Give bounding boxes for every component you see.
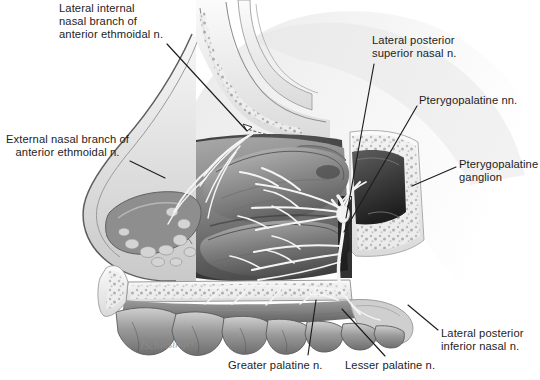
label-lesser-palatine-n: Lesser palatine n. — [345, 359, 435, 372]
label-lateral-posterior-inferior-nasal: Lateral posterior inferior nasal n. — [441, 327, 524, 353]
label-greater-palatine-n: Greater palatine n. — [228, 359, 323, 372]
label-pterygopalatine-ganglion: Pterygopalatine ganglion — [459, 158, 538, 184]
anatomy-artwork — [0, 0, 540, 380]
illustration-figure: Lateral internal nasal branch of anterio… — [0, 0, 540, 380]
label-lateral-posterior-superior-nasal: Lateral posterior superior nasal n. — [372, 34, 456, 60]
label-lateral-internal-nasal-branch: Lateral internal nasal branch of anterio… — [59, 2, 163, 42]
label-external-nasal-branch: External nasal branch of anterior ethmoi… — [6, 133, 129, 159]
label-pterygopalatine-nn: Pterygopalatine nn. — [419, 94, 517, 107]
